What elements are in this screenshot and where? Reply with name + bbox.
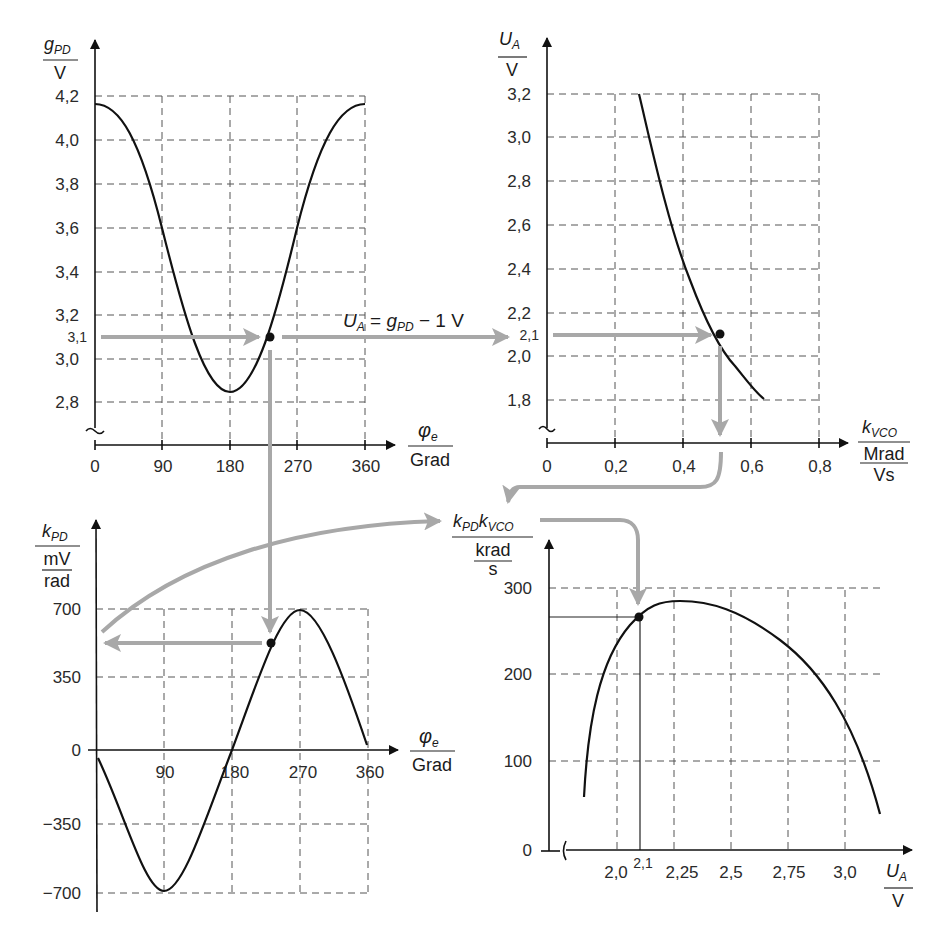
svg-text:2,2: 2,2 [507, 304, 531, 323]
svg-text:4,2: 4,2 [55, 87, 79, 106]
svg-text:3,0: 3,0 [833, 863, 857, 882]
chart-kpdkvco-vs-ua: 2,0 2,1 2,25 2,5 2,75 3,0 300 200 100 0 … [452, 511, 913, 911]
flow-arrows [101, 335, 721, 643]
svg-text:3,1: 3,1 [68, 329, 88, 345]
grid [549, 588, 885, 850]
relation-label: UA = gPD − 1 V [343, 310, 464, 334]
svg-text:UA: UA [886, 861, 907, 884]
svg-text:0,2: 0,2 [604, 457, 628, 476]
x-axis-label: φe Grad [408, 419, 453, 470]
svg-text:−700: −700 [43, 884, 81, 903]
pll-characteristics-figure: 0 90 180 270 360 4,2 4,0 3,8 3,6 3,4 3,2… [0, 0, 943, 941]
svg-text:3,6: 3,6 [55, 219, 79, 238]
x-axis-label: kVCO Mrad Vs [858, 417, 910, 485]
svg-text:700: 700 [53, 600, 81, 619]
y-ticks: 3,2 3,0 2,8 2,6 2,4 2,2 2,0 1,8 2,1 [507, 85, 539, 410]
svg-text:270: 270 [284, 457, 312, 476]
y-axis-label: gPD V [43, 34, 78, 83]
svg-text:2,1: 2,1 [633, 855, 653, 871]
svg-text:UA = gPD − 1 V: UA = gPD − 1 V [343, 310, 464, 334]
x-axis-label: φe Grad [410, 725, 455, 775]
svg-text:gPD: gPD [44, 34, 71, 57]
axis-break-icon [86, 429, 104, 434]
svg-text:0: 0 [90, 457, 99, 476]
svg-text:360: 360 [352, 457, 380, 476]
operating-point [716, 330, 725, 339]
svg-text:2,0: 2,0 [604, 863, 628, 882]
grid [547, 94, 819, 443]
svg-text:3,8: 3,8 [55, 175, 79, 194]
svg-text:2,8: 2,8 [55, 393, 79, 412]
svg-text:2,5: 2,5 [719, 863, 743, 882]
svg-text:0,8: 0,8 [808, 457, 832, 476]
svg-text:Grad: Grad [412, 755, 452, 775]
svg-text:Mrad: Mrad [863, 444, 904, 464]
svg-text:90: 90 [154, 457, 173, 476]
svg-text:2,1: 2,1 [520, 327, 540, 343]
svg-text:mV: mV [44, 549, 71, 569]
svg-text:4,0: 4,0 [55, 131, 79, 150]
y-axis-label: kPDkVCO krad s [452, 511, 533, 579]
svg-text:kPD: kPD [42, 521, 68, 544]
svg-text:2,6: 2,6 [507, 216, 531, 235]
svg-text:φe: φe [418, 419, 438, 444]
svg-text:Vs: Vs [873, 465, 894, 485]
x-ticks: 90 180 270 360 [156, 763, 385, 782]
svg-text:360: 360 [356, 763, 384, 782]
svg-text:1,8: 1,8 [507, 391, 531, 410]
svg-text:100: 100 [504, 752, 532, 771]
svg-text:3,2: 3,2 [507, 85, 531, 104]
svg-text:V: V [506, 60, 518, 80]
arrow-product-to-curve [540, 520, 638, 604]
svg-text:V: V [892, 891, 904, 911]
svg-text:2,4: 2,4 [507, 260, 531, 279]
svg-text:−350: −350 [43, 815, 81, 834]
svg-text:3,2: 3,2 [55, 306, 79, 325]
svg-text:2,0: 2,0 [507, 347, 531, 366]
svg-text:kPDkVCO: kPDkVCO [453, 511, 514, 534]
y-axis-label: kPD mV rad [35, 521, 80, 591]
y-axis [96, 520, 97, 912]
svg-text:300: 300 [504, 579, 532, 598]
x-axis-label: UA V [884, 861, 913, 911]
ua-curve [639, 94, 764, 399]
kpdkvco-curve [584, 601, 880, 814]
operating-point [267, 639, 276, 648]
svg-text:0,6: 0,6 [740, 457, 764, 476]
chart-ua-vs-kvco: 0 0,2 0,4 0,6 0,8 3,2 3,0 2,8 2,6 2,4 2,… [498, 29, 910, 485]
svg-text:180: 180 [216, 457, 244, 476]
x-ticks: 2,0 2,1 2,25 2,5 2,75 3,0 [604, 855, 857, 882]
chart-kpd-vs-phi: 90 180 270 360 700 350 0 −350 −700 kPD m… [35, 520, 455, 912]
y-ticks: 700 350 0 −350 −700 [43, 600, 81, 903]
svg-text:3,0: 3,0 [55, 350, 79, 369]
svg-text:270: 270 [289, 763, 317, 782]
operating-point [266, 333, 275, 342]
svg-text:φe: φe [419, 725, 439, 750]
svg-text:2,75: 2,75 [772, 863, 805, 882]
svg-text:s: s [489, 559, 498, 579]
svg-text:90: 90 [156, 763, 175, 782]
svg-text:V: V [54, 63, 66, 83]
operating-point [635, 613, 644, 622]
axis-break-icon [564, 841, 567, 860]
svg-text:350: 350 [53, 668, 81, 687]
svg-text:UA: UA [499, 29, 520, 52]
svg-text:0: 0 [542, 457, 551, 476]
svg-text:0: 0 [72, 741, 81, 760]
chart-gpd-vs-phi: 0 90 180 270 360 4,2 4,0 3,8 3,6 3,4 3,2… [43, 34, 453, 476]
y-ticks: 300 200 100 0 [504, 579, 532, 860]
svg-text:0,4: 0,4 [672, 457, 696, 476]
svg-text:200: 200 [504, 665, 532, 684]
svg-text:3,4: 3,4 [55, 263, 79, 282]
y-axis-label: UA V [498, 29, 527, 80]
svg-text:krad: krad [475, 540, 510, 560]
svg-text:2,8: 2,8 [507, 172, 531, 191]
svg-text:kVCO: kVCO [862, 417, 897, 440]
svg-text:rad: rad [44, 571, 70, 591]
svg-text:2,25: 2,25 [665, 863, 698, 882]
svg-text:Grad: Grad [410, 450, 450, 470]
svg-text:0: 0 [523, 841, 532, 860]
y-ticks: 4,2 4,0 3,8 3,6 3,4 3,2 3,0 2,8 3,1 [55, 87, 87, 412]
svg-text:3,0: 3,0 [507, 128, 531, 147]
